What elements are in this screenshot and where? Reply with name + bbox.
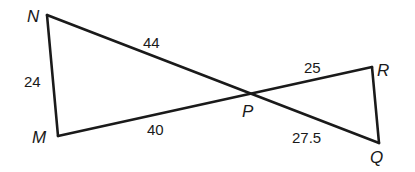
vertex-label-Q: Q: [370, 148, 383, 167]
segment-NM: [47, 15, 58, 136]
segment-MR: [58, 67, 372, 136]
length-label-NM: 24: [24, 73, 41, 90]
vertex-label-M: M: [32, 128, 47, 147]
length-label-NP: 44: [143, 34, 160, 51]
length-label-PR: 25: [304, 59, 321, 76]
vertex-label-P: P: [242, 102, 254, 121]
vertex-label-N: N: [27, 7, 40, 26]
vertex-label-R: R: [377, 61, 389, 80]
length-label-PQ: 27.5: [292, 129, 321, 146]
geometry-diagram: N M P R Q 44 24 40 25 27.5: [0, 0, 415, 172]
length-label-MP: 40: [147, 121, 164, 138]
segment-NQ: [47, 15, 379, 143]
